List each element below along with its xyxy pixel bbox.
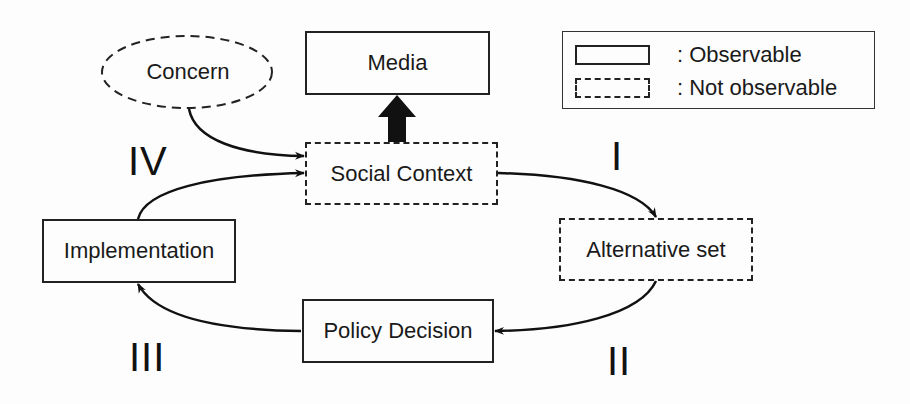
implementation-label: Implementation [64,238,214,264]
alternative-set-node: Alternative set [559,218,753,281]
social-context-node: Social Context [305,142,498,205]
arrow-social-context-to-alternative-set [498,173,656,217]
arrow-concern-to-social-context [189,109,304,156]
media-node: Media [305,31,490,95]
arrow-alternative-set-to-policy-decision [495,281,656,331]
legend-observable-label: : Observable [677,42,802,68]
phase-label-ii: II [607,341,631,381]
thick-arrow-social-context-to-media [378,95,416,142]
implementation-node: Implementation [42,219,236,283]
phase-label-iv: IV [128,141,168,181]
legend: : Observable : Not observable [562,31,875,109]
concern-label: Concern [146,59,229,85]
phase-label-i: I [611,136,623,176]
phase-label-iii: III [129,337,165,377]
legend-not-observable-label: : Not observable [677,75,837,101]
dashed-box-swatch-icon [575,78,650,98]
policy-decision-node: Policy Decision [302,299,494,363]
arrow-policy-decision-to-implementation [138,284,301,331]
legend-row-not-observable: : Not observable [575,75,837,101]
alternative-set-label: Alternative set [586,237,725,263]
social-context-label: Social Context [331,161,473,187]
media-label: Media [368,50,428,76]
concern-node: Concern [103,36,273,108]
solid-box-swatch-icon [575,45,650,65]
legend-row-observable: : Observable [575,42,802,68]
policy-decision-label: Policy Decision [323,318,472,344]
